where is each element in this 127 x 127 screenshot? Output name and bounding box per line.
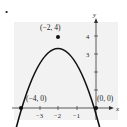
root-point-left [19, 106, 23, 110]
x-axis-label: x [115, 105, 120, 113]
y-axis-label: y [92, 11, 97, 19]
parabola-chart: • x y −3 −2 −1 3 4 (−2, 4) (−4, 0) (0, 0… [0, 0, 127, 127]
vertex-label: (−2, 4) [40, 23, 61, 32]
x-tick-label: −3 [36, 112, 43, 119]
vertex-point [56, 35, 60, 39]
root-point-origin [94, 106, 98, 110]
origin-label: (0, 0) [97, 94, 114, 103]
x-tick-label: −1 [73, 112, 80, 119]
x-tick-label: −2 [54, 112, 61, 119]
plot-background [14, 22, 118, 120]
y-tick-label: 3 [86, 51, 89, 58]
left-root-label: (−4, 0) [26, 94, 47, 103]
item-marker: • [5, 7, 8, 17]
